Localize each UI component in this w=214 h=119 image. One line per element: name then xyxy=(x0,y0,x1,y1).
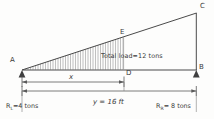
y-dimension-line xyxy=(22,86,196,96)
reaction-right-label: RR= 8 tons xyxy=(156,103,191,111)
vertex-label-d: D xyxy=(126,70,132,77)
support-marker-right xyxy=(193,70,200,78)
support-marker-left xyxy=(19,70,26,78)
vertex-label-b: B xyxy=(199,64,204,71)
total-load-label: Total load=12 tons xyxy=(101,53,163,59)
beam-load-diagram: A B C D E Total load=12 tons x y = 16 ft… xyxy=(0,0,214,119)
y-dimension-label: y = 16 ft xyxy=(93,99,124,106)
reaction-left-label: RL=4 tons xyxy=(6,103,38,111)
reaction-left-value: =4 tons xyxy=(13,102,38,110)
reaction-right-value: = 8 tons xyxy=(164,102,191,110)
vertex-label-e: E xyxy=(120,29,125,36)
vertex-label-c: C xyxy=(200,3,205,10)
x-dimension-label: x xyxy=(69,74,73,81)
vertex-label-a: A xyxy=(10,57,15,64)
load-intensity-line xyxy=(22,13,197,70)
